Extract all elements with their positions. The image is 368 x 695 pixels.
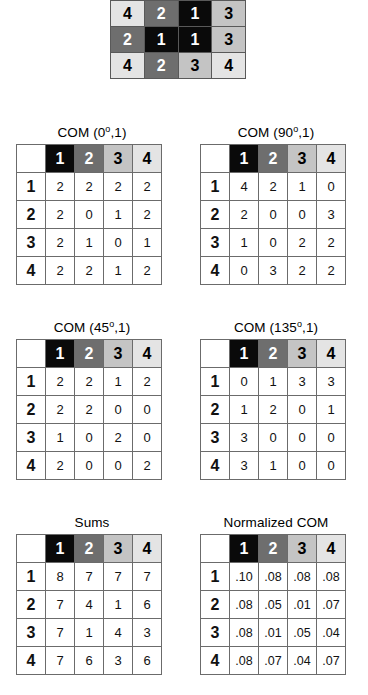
table-row: 32101 [17, 229, 162, 257]
row-header: 1 [201, 368, 230, 396]
source-cell: 3 [178, 53, 212, 79]
table-row: 12222 [17, 173, 162, 201]
column-header: 4 [133, 535, 162, 563]
matrix-cell: .08 [288, 563, 317, 591]
com-matrix-body: 12341.10.08.08.082.08.05.01.073.08.01.05… [201, 535, 346, 675]
matrix-cell: 6 [75, 647, 104, 675]
matrix-cell: 2 [230, 201, 259, 229]
table-row: 31022 [201, 229, 346, 257]
table-row: 42212 [17, 257, 162, 285]
table-row: 22012 [17, 201, 162, 229]
matrix-cell: .08 [259, 563, 288, 591]
matrix-cell: 3 [230, 452, 259, 480]
matrix-cell: 0 [104, 452, 133, 480]
table-row: 18777 [17, 563, 162, 591]
matrix-cell: 0 [104, 229, 133, 257]
matrix-cell: 2 [46, 229, 75, 257]
panel-com-135: COM (135o,1)123410133212013300043100 [200, 319, 352, 480]
matrix-cell: .04 [317, 619, 346, 647]
panel-com-90: COM (90o,1)123414210220033102240322 [200, 124, 352, 285]
table-row: 47636 [17, 647, 162, 675]
matrix-cell: 0 [104, 396, 133, 424]
matrix-cell: 2 [46, 201, 75, 229]
matrix-cell: 0 [317, 424, 346, 452]
table-row: 22200 [17, 396, 162, 424]
table-row: 43100 [201, 452, 346, 480]
matrix-cell: .07 [317, 647, 346, 675]
matrix-cell: 0 [75, 201, 104, 229]
figure-root: 4 4 1 4 4 2 1 3 2 1 1 3 4 [0, 0, 368, 695]
matrix-cell: 1 [104, 201, 133, 229]
matrix-cell: .08 [317, 563, 346, 591]
matrix-cell: 0 [133, 424, 162, 452]
com-matrix-table: 123414210220033102240322 [200, 144, 346, 285]
row-header: 3 [201, 619, 230, 647]
row-header: 2 [17, 591, 46, 619]
matrix-cell: 2 [133, 257, 162, 285]
matrix-cell: .04 [288, 647, 317, 675]
matrix-cell: 0 [230, 257, 259, 285]
matrix-cell: 1 [75, 619, 104, 647]
matrix-cell: 3 [104, 647, 133, 675]
table-row: 12212 [17, 368, 162, 396]
row-header: 3 [201, 229, 230, 257]
source-cell: 1 [144, 27, 178, 53]
matrix-cell: 2 [288, 257, 317, 285]
row-header: 1 [17, 563, 46, 591]
source-cell: 4 [212, 53, 246, 79]
matrix-cell: 7 [46, 647, 75, 675]
column-header: 2 [75, 145, 104, 173]
panel-title: COM (0o,1) [16, 124, 168, 141]
table-row: 10133 [201, 368, 346, 396]
column-header: 3 [104, 145, 133, 173]
matrix-cell: .08 [230, 619, 259, 647]
column-header: 4 [317, 145, 346, 173]
source-cell: 3 [212, 1, 246, 27]
matrix-cell: 1 [259, 452, 288, 480]
matrix-cell: 1 [230, 229, 259, 257]
table-row: 2.08.05.01.07 [201, 591, 346, 619]
matrix-cell: 8 [46, 563, 75, 591]
table-row: 14210 [201, 173, 346, 201]
row-header: 4 [17, 452, 46, 480]
matrix-cell: 0 [288, 452, 317, 480]
com-matrix-table: 123418777274163714347636 [16, 534, 162, 675]
matrix-cell: 0 [288, 396, 317, 424]
table-row: 40322 [201, 257, 346, 285]
column-header: 4 [317, 535, 346, 563]
column-header: 3 [288, 340, 317, 368]
panel-title: COM (135o,1) [200, 319, 352, 336]
column-header: 3 [288, 535, 317, 563]
source-matrix-body: 4 4 1 4 4 2 1 3 2 1 1 3 4 [111, 0, 246, 79]
table-row: 2 1 1 3 [111, 27, 246, 53]
matrix-cell: 2 [317, 257, 346, 285]
matrix-cell: .08 [230, 591, 259, 619]
matrix-cell: 3 [230, 424, 259, 452]
column-header: 4 [317, 340, 346, 368]
table-row: 27416 [17, 591, 162, 619]
table-row: 21201 [201, 396, 346, 424]
matrix-cell: 2 [46, 257, 75, 285]
matrix-cell: 0 [259, 201, 288, 229]
panel-normalized-com: Normalized COM12341.10.08.08.082.08.05.0… [200, 514, 352, 675]
matrix-cell: 2 [259, 173, 288, 201]
matrix-cell: 2 [288, 229, 317, 257]
column-header: 3 [288, 145, 317, 173]
table-row: 22003 [201, 201, 346, 229]
table-header-row: 1234 [17, 340, 162, 368]
matrix-cell: 2 [46, 173, 75, 201]
matrix-cell: 7 [75, 563, 104, 591]
matrix-cell: .05 [259, 591, 288, 619]
table-row: 42002 [17, 452, 162, 480]
matrix-cell: 2 [46, 368, 75, 396]
matrix-cell: .01 [259, 619, 288, 647]
panel-title-prefix: COM (45 [54, 320, 109, 335]
table-row: 37143 [17, 619, 162, 647]
row-header: 1 [17, 173, 46, 201]
panel-com-45: COM (45o,1)123412212222003102042002 [16, 319, 168, 480]
column-header: 2 [259, 340, 288, 368]
matrix-cell: 1 [104, 257, 133, 285]
com-matrix-body: 123414210220033102240322 [201, 145, 346, 285]
matrix-cell: 2 [75, 396, 104, 424]
row-header: 4 [201, 647, 230, 675]
